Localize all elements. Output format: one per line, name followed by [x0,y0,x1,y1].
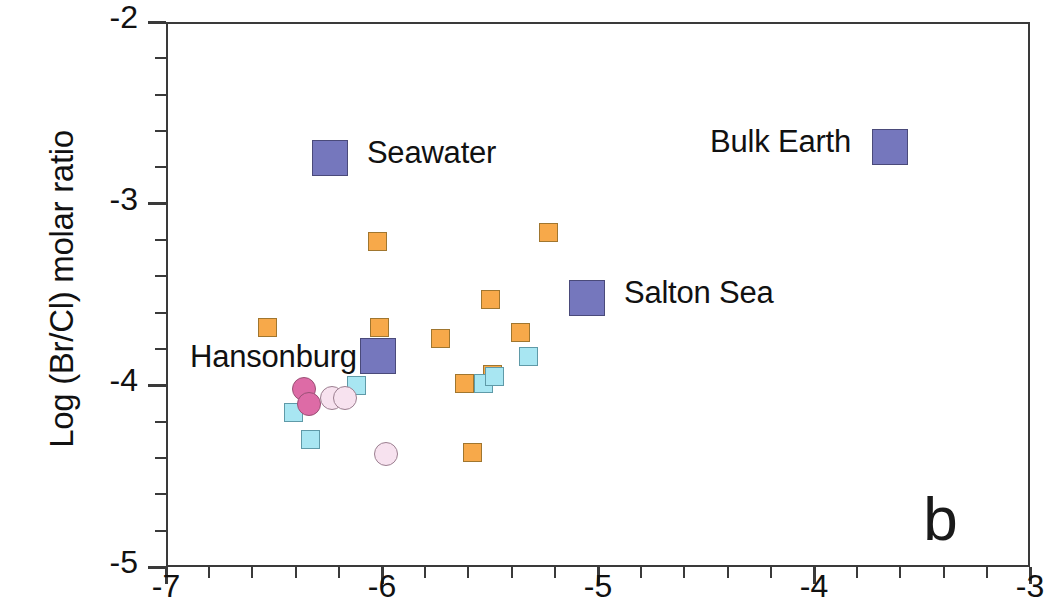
orange-square-marker [431,329,450,348]
annotation-bulk-earth: Bulk Earth [710,124,851,160]
reference-marker-salton-sea [569,280,605,316]
x-axis-minor-tick [640,567,642,578]
x-axis-minor-tick [338,567,340,578]
orange-square-marker [463,443,482,462]
orange-square-marker [368,232,387,251]
orange-square-marker [370,318,389,337]
x-axis-tick-label: -5 [563,568,633,605]
y-axis-minor-tick [155,348,166,350]
x-axis-minor-tick [986,567,988,578]
x-axis-tick-label: -7 [131,568,201,605]
y-axis-minor-tick [155,94,166,96]
y-axis-minor-tick [155,530,166,532]
y-axis-tick-label: -4 [78,362,138,399]
x-axis-minor-tick [424,567,426,578]
reference-marker-hansonburg [360,338,396,374]
x-axis-minor-tick [943,567,945,578]
y-axis-tick-label: -3 [78,181,138,218]
x-axis-minor-tick [727,567,729,578]
y-axis-minor-tick [155,57,166,59]
y-axis-minor-tick [155,239,166,241]
magenta-circle-marker [297,392,321,416]
y-axis-minor-tick [155,457,166,459]
y-axis-minor-tick [155,275,166,277]
x-axis-minor-tick [856,567,858,578]
x-axis-minor-tick [899,567,901,578]
x-axis-minor-tick [511,567,513,578]
orange-square-marker [511,323,530,342]
x-axis-minor-tick [251,567,253,578]
y-axis-major-tick [148,202,166,205]
annotation-hansonburg: Hansonburg [190,339,357,375]
cyan-square-marker [519,347,538,366]
y-axis-major-tick [148,21,166,24]
orange-square-marker [455,374,474,393]
x-axis-tick-label: -6 [347,568,417,605]
orange-square-marker [481,290,500,309]
orange-square-marker [539,223,558,242]
y-axis-tick-label: -5 [78,544,138,581]
orange-square-marker [258,318,277,337]
y-axis-minor-tick [155,421,166,423]
x-axis-tick-label: -4 [779,568,849,605]
x-axis-minor-tick [208,567,210,578]
y-axis-minor-tick [155,312,166,314]
x-axis-minor-tick [554,567,556,578]
x-axis-tick-label: -3 [995,568,1046,605]
panel-letter-label: b [923,483,957,554]
y-axis-minor-tick [155,166,166,168]
scatter-plot-figure: Log (Br/Cl) molar ratio -2-3-4-5-7-6-5-4… [0,0,1046,607]
y-axis-minor-tick [155,130,166,132]
x-axis-minor-tick [467,567,469,578]
reference-marker-seawater [312,140,348,176]
y-axis-title: Log (Br/Cl) molar ratio [43,59,81,519]
reference-marker-bulk-earth [872,129,908,165]
x-axis-minor-tick [295,567,297,578]
x-axis-minor-tick [683,567,685,578]
y-axis-minor-tick [155,493,166,495]
y-axis-tick-label: -2 [78,0,138,36]
annotation-seawater: Seawater [367,135,496,171]
cyan-square-marker [485,367,504,386]
cyan-square-marker [301,430,320,449]
y-axis-major-tick [148,384,166,387]
annotation-salton-sea: Salton Sea [624,275,774,311]
x-axis-minor-tick [770,567,772,578]
